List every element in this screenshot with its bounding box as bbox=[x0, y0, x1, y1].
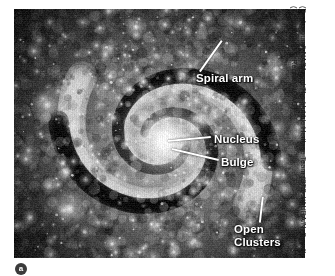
leader-line-open-clusters bbox=[259, 197, 264, 223]
photo-credit: (Background) NASA and The Hubble Heritag… bbox=[284, 6, 308, 258]
callout-overlay: Spiral armNucleusBulgeOpen Clusters bbox=[14, 9, 305, 258]
figure-marker-bullet: a bbox=[15, 263, 27, 275]
callout-label-bulge: Bulge bbox=[221, 156, 253, 169]
callout-label-nucleus: Nucleus bbox=[214, 133, 259, 146]
galaxy-figure: Spiral armNucleusBulgeOpen Clusters (Bac… bbox=[0, 0, 335, 276]
leader-line-nucleus bbox=[168, 136, 211, 142]
callout-label-open-clusters: Open Clusters bbox=[234, 223, 281, 248]
galaxy-photo-frame: Spiral armNucleusBulgeOpen Clusters bbox=[14, 9, 305, 258]
callout-label-spiral-arm: Spiral arm bbox=[196, 72, 253, 85]
leader-line-bulge bbox=[172, 148, 219, 161]
leader-line-spiral-arm bbox=[199, 40, 222, 72]
